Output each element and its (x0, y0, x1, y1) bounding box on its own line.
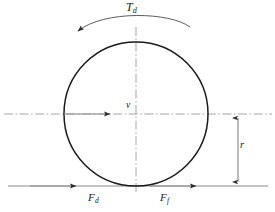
torque-arc (78, 15, 190, 31)
force-friction-label: Ff (160, 192, 169, 203)
velocity-symbol: v (126, 100, 130, 110)
torque-symbol: T (126, 0, 133, 14)
diagram-canvas (0, 0, 275, 212)
force-drive-label: Fd (88, 192, 98, 203)
force-drive-subscript: d (95, 196, 99, 205)
velocity-label: v (126, 101, 130, 111)
force-drive-symbol: F (88, 191, 95, 203)
torque-label: Td (126, 1, 137, 13)
radius-label: r (240, 140, 244, 151)
force-friction-symbol: F (160, 191, 167, 203)
rolling-wheel-free-body-diagram: Td v r Fd Ff (0, 0, 275, 212)
force-friction-subscript: f (167, 196, 169, 205)
torque-subscript: d (133, 6, 137, 15)
radius-symbol: r (240, 139, 244, 150)
